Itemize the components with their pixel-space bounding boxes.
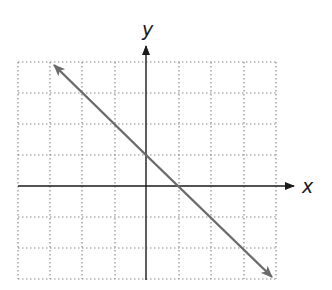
coordinate-plane: y x <box>0 0 332 290</box>
axes <box>18 46 294 280</box>
x-axis-label: x <box>301 175 314 197</box>
data-line <box>54 65 272 277</box>
y-axis-label: y <box>141 18 154 40</box>
grid <box>18 62 276 279</box>
